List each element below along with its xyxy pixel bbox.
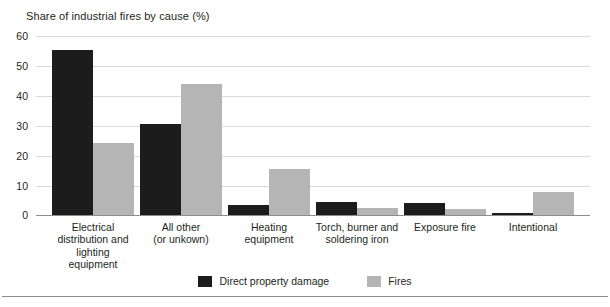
bar-direct-property-damage[interactable] <box>492 213 533 215</box>
axis-baseline <box>36 215 590 216</box>
bar-fires[interactable] <box>181 84 222 215</box>
y-tick-label: 0 <box>22 210 28 220</box>
legend-swatch-icon <box>367 276 381 287</box>
y-tick-label: 10 <box>16 181 28 191</box>
bar-fires[interactable] <box>445 209 486 215</box>
x-axis-category-label: Intentional <box>474 221 592 233</box>
bar-fires[interactable] <box>93 143 134 215</box>
y-tick-label: 60 <box>16 31 28 41</box>
bottom-divider <box>2 296 608 297</box>
chart-title: Share of industrial fires by cause (%) <box>26 10 210 22</box>
y-tick-label: 40 <box>16 91 28 101</box>
bar-fires[interactable] <box>269 169 310 215</box>
legend-item-direct-property-damage: Direct property damage <box>198 275 329 287</box>
legend-label: Direct property damage <box>219 275 329 287</box>
y-axis: 60 50 40 30 20 10 0 <box>0 28 34 228</box>
chart-figure: Share of industrial fires by cause (%) 6… <box>0 0 610 307</box>
chart-legend: Direct property damage Fires <box>0 272 610 290</box>
legend-swatch-icon <box>198 276 212 287</box>
bar-direct-property-damage[interactable] <box>316 202 357 215</box>
y-tick-label: 50 <box>16 61 28 71</box>
legend-item-fires: Fires <box>367 275 411 287</box>
bar-fires[interactable] <box>533 192 574 215</box>
bar-direct-property-damage[interactable] <box>52 50 93 215</box>
bar-direct-property-damage[interactable] <box>228 205 269 215</box>
y-tick-label: 20 <box>16 151 28 161</box>
bar-fires[interactable] <box>357 208 398 215</box>
bar-direct-property-damage[interactable] <box>404 203 445 215</box>
bar-groups <box>36 36 590 215</box>
bar-direct-property-damage[interactable] <box>140 124 181 215</box>
legend-label: Fires <box>388 275 411 287</box>
y-tick-label: 30 <box>16 121 28 131</box>
